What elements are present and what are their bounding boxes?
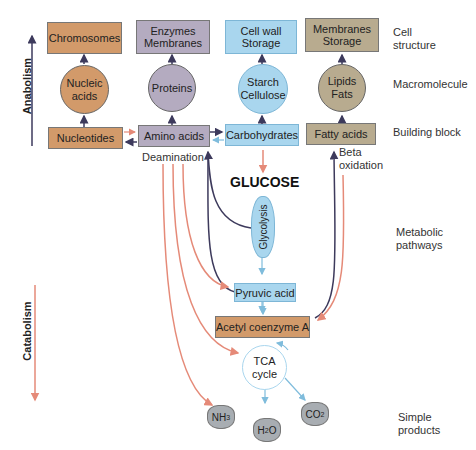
starch-cellulose-circle: Starch Cellulose [238,64,288,114]
building-block-level: Building block [393,126,461,139]
catabolism-label: Catabolism [21,296,33,366]
membranes-storage-box: Membranes Storage [305,18,379,52]
anabolism-label: Anabolism [21,51,33,121]
carbohydrates-box: Carbohydrates [225,124,299,146]
cell-structure-level: Cell structure [393,26,453,52]
metabolic-pathways-level: Metabolic pathways [396,226,446,252]
nucleotides-box: Nucleotides [48,127,123,149]
enzymes-membranes-box: Enzymes Membranes [136,20,210,54]
fatty-acids-box: Fatty acids [306,123,376,145]
nh3-product: NH3 [207,405,235,429]
acetyl-coa-box: Acetyl coenzyme A [215,316,310,338]
glycolysis-shape: Glycolysis [251,196,275,258]
lipids-fats-circle: Lipids Fats [318,64,366,112]
glycolysis-label: Glycolysis [257,204,269,249]
nucleic-acids-circle: Nucleic acids [60,65,109,114]
chromosomes-box: Chromosomes [47,22,122,54]
simple-products-level: Simple products [398,411,448,437]
cell-wall-storage-box: Cell wall Storage [225,20,297,54]
deamination-label: Deamination [142,151,204,164]
pyruvic-acid-box: Pyruvic acid [234,283,296,302]
beta-oxidation-label: Beta oxidation [339,146,383,172]
amino-acids-box: Amino acids [138,125,210,147]
h2o-product: H2O [253,418,281,442]
macromolecule-level: Macromolecule [393,78,468,91]
glucose-label: GLUCOSE [230,176,299,189]
proteins-circle: Proteins [148,64,196,112]
tca-cycle-circle: TCA cycle [242,345,287,390]
co2-product: CO2 [301,402,329,426]
